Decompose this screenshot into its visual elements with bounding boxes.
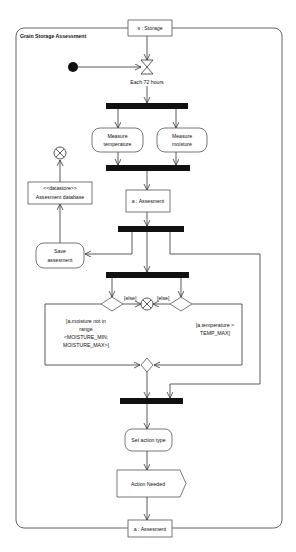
action-measure-temperature[interactable]: [92, 128, 143, 152]
hourglass-icon[interactable]: [141, 60, 153, 74]
signal-label: Action Needed: [131, 481, 165, 487]
guard-temperature-line2: TEMP_MAX]: [200, 330, 231, 336]
measure-moisture-line1: Measure: [172, 133, 192, 139]
datastore-name: Assesment database: [36, 194, 85, 200]
action-measure-moisture[interactable]: [157, 128, 207, 152]
initial-node[interactable]: [68, 62, 78, 72]
input-pin-label: s : Storage: [137, 25, 162, 31]
frame-title: Grain Storage Assessment: [20, 33, 86, 39]
measure-temperature-line1: Measure: [107, 133, 127, 139]
decision-moisture[interactable]: [101, 297, 123, 311]
fork-bar-1: [106, 103, 188, 109]
merge-node[interactable]: [141, 358, 153, 372]
save-assessment-line1: Save: [54, 248, 66, 254]
measure-moisture-line2: moisture: [172, 141, 192, 147]
save-assessment-line2: assesment: [47, 257, 73, 263]
guard-temperature-line1: [a.temperature >: [196, 322, 234, 328]
output-pin-label: a : Assesment: [134, 526, 167, 532]
guard-moisture-line3: <MOISTURE_MIN;: [64, 334, 108, 340]
flow-final-center-icon: [141, 298, 153, 310]
time-event-label: Each 72 hours: [130, 79, 164, 85]
fork-bar-4: [106, 272, 189, 278]
join-bar-2: [106, 165, 190, 171]
fork-bar-3: [118, 226, 184, 232]
measure-temperature-line2: temperature: [104, 141, 132, 147]
object-node-label: a : Assesment: [132, 198, 165, 204]
guard-moisture-line4: MOISTURE_MAX>]: [63, 342, 110, 348]
guard-moisture-line2: range: [79, 326, 92, 332]
guard-else-left: [else]: [124, 295, 137, 301]
action-save-assessment[interactable]: [36, 243, 84, 268]
flow-fork3-to-join5: [170, 232, 260, 398]
activity-diagram: Grain Storage Assessment s : Storage Eac…: [0, 0, 296, 552]
set-action-type-label: Set action type: [131, 437, 165, 443]
flow-fork3-to-save: [85, 232, 132, 254]
datastore-stereotype: <<datastore>>: [43, 185, 77, 191]
decision-temperature[interactable]: [170, 297, 192, 311]
guard-moisture-line1: [a.moisture not in: [66, 318, 106, 324]
flow-final-icon: [54, 147, 66, 159]
guard-else-right: [else]: [157, 295, 170, 301]
join-bar-5: [120, 398, 183, 404]
